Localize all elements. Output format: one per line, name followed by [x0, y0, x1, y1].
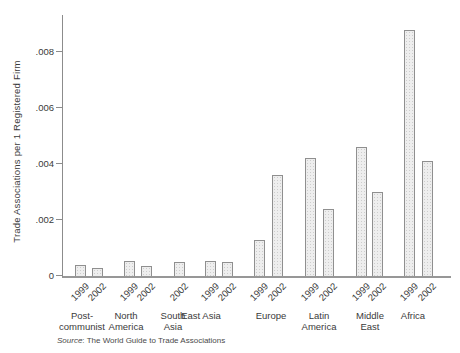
- bar: [323, 209, 334, 276]
- plot-area: 0.002.004.006.00819991999199919991999199…: [62, 15, 451, 278]
- source-note: Source: The World Guide to Trade Associa…: [57, 336, 225, 345]
- bar: [124, 261, 135, 276]
- category-label: East Asia: [161, 310, 241, 321]
- bar: [222, 262, 233, 276]
- y-axis-tick-label: .002: [16, 214, 54, 225]
- bar: [404, 30, 415, 276]
- y-axis-tick: [56, 107, 62, 108]
- y-axis-tick-label: .006: [16, 102, 54, 113]
- bar: [205, 261, 216, 276]
- bar: [174, 262, 185, 276]
- bar: [305, 158, 316, 276]
- x-axis-year-label: 2002: [157, 281, 190, 314]
- bar-chart-figure: Trade Associations per 1 Registered Firm…: [0, 0, 460, 353]
- y-axis-tick-label: 0: [16, 270, 54, 281]
- bar: [422, 161, 433, 276]
- y-axis-tick: [56, 219, 62, 220]
- y-axis-tick-label: .008: [16, 46, 54, 57]
- y-axis-tick: [56, 51, 62, 52]
- bar: [254, 240, 265, 276]
- y-axis-tick: [56, 275, 62, 276]
- bar: [92, 268, 103, 276]
- bar: [372, 192, 383, 276]
- source-text: : The World Guide to Trade Associations: [82, 336, 225, 345]
- bar: [356, 147, 367, 276]
- y-axis-tick: [56, 163, 62, 164]
- source-label: Source: [57, 336, 82, 345]
- bar: [75, 265, 86, 276]
- bar: [141, 266, 152, 276]
- bar: [272, 175, 283, 276]
- category-label: Africa: [373, 310, 453, 321]
- y-axis-tick-label: .004: [16, 158, 54, 169]
